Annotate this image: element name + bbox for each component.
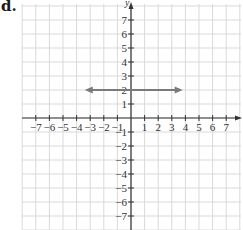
y-tick-label: −5: [115, 182, 127, 194]
y-tick-label: −4: [115, 168, 127, 180]
x-tick-label: −2: [98, 121, 110, 133]
x-tick-label: −5: [57, 121, 69, 133]
x-tick-label: 2: [155, 121, 161, 133]
y-tick-label: −7: [115, 210, 127, 222]
right-arrow-icon: [175, 87, 183, 94]
coordinate-plane: y −7−6−5−4−3−2−112345677654321−1−2−3−4−5…: [0, 0, 243, 230]
x-tick-label: −7: [30, 121, 42, 133]
x-tick-label: −3: [84, 121, 96, 133]
x-tick-label: 7: [223, 121, 229, 133]
plotted-line: [85, 87, 183, 94]
x-tick-label: 1: [142, 121, 148, 133]
x-tick-label: 3: [169, 121, 175, 133]
x-tick-label: 5: [196, 121, 202, 133]
y-tick-label: −2: [115, 140, 127, 152]
x-tick-label: 6: [210, 121, 216, 133]
x-tick-label: −4: [71, 121, 83, 133]
x-tick-label: 4: [183, 121, 189, 133]
y-tick-label: −3: [115, 154, 127, 166]
y-tick-label: −1: [115, 126, 127, 138]
y-tick-label: 5: [122, 42, 128, 54]
left-arrow-icon: [85, 87, 93, 94]
y-tick-label: 3: [122, 70, 128, 82]
y-axis-label: y: [124, 0, 130, 8]
y-tick-label: 1: [122, 98, 128, 110]
y-tick-label: 7: [122, 14, 128, 26]
y-tick-label: −6: [115, 196, 127, 208]
y-tick-label: 6: [122, 28, 128, 40]
x-tick-label: −6: [44, 121, 56, 133]
y-tick-label: 4: [122, 56, 128, 68]
x-axis-arrow-icon: [235, 116, 242, 121]
